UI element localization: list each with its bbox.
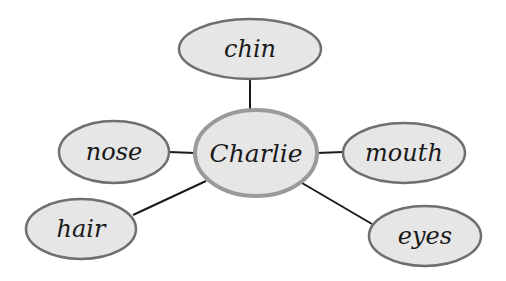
connector-eyes [302, 183, 372, 224]
node-hair: hair [26, 199, 136, 259]
node-label: chin [224, 35, 276, 63]
connector-hair [133, 181, 206, 215]
node-label: hair [57, 215, 107, 243]
center-label: Charlie [210, 139, 303, 168]
node-mouth: mouth [343, 123, 465, 183]
node-label: nose [86, 138, 142, 166]
center-node-charlie: Charlie [195, 110, 317, 196]
node-label: eyes [398, 222, 452, 250]
diagram-canvas: chinnosemouthhaireyes Charlie [0, 0, 506, 281]
node-label: mouth [365, 139, 443, 167]
node-nose: nose [59, 121, 169, 183]
node-eyes: eyes [369, 206, 481, 266]
mind-map-diagram: chinnosemouthhaireyes Charlie [0, 0, 506, 281]
node-chin: chin [179, 19, 321, 79]
connector-mouth [317, 152, 343, 153]
connector-nose [169, 152, 195, 153]
